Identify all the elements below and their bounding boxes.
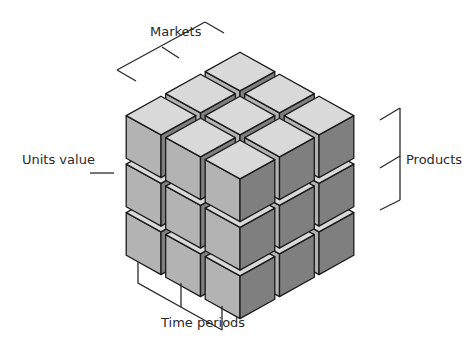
markets-bracket-tick [205, 22, 224, 33]
products-label: Products [406, 152, 462, 167]
cube-graphic [0, 0, 474, 345]
markets-label: Markets [150, 24, 201, 39]
markets-bracket-tick [117, 70, 136, 81]
units-value-label: Units value [22, 152, 95, 167]
data-cube-diagram: Markets Units value Products Time period… [0, 0, 474, 345]
time-periods-label: Time periods [161, 315, 245, 330]
products-bracket-tick [380, 108, 400, 120]
markets-bracket-tick [162, 47, 179, 58]
products-bracket-tick [380, 200, 400, 210]
products-bracket-tick [380, 156, 400, 168]
